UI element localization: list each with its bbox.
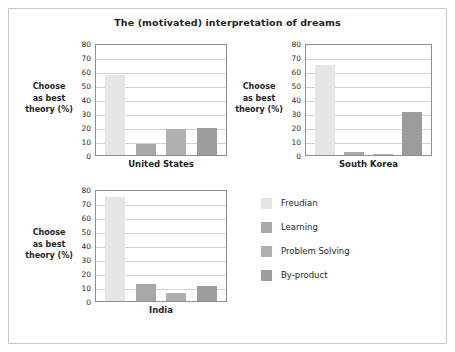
y-axis-label-line-1: Choose [231,81,287,93]
panel-united-states: Choose as best theory (%) 80706050403020… [21,35,231,177]
bar [136,284,156,302]
bar [105,197,125,301]
figure-frame: The (motivated) interpretation of dreams… [8,8,447,344]
panel-south-korea: Choose as best theory (%) 80706050403020… [231,35,436,177]
y-tick-label: 20 [285,125,301,133]
y-tick-label: 80 [75,41,91,49]
y-tick-label: 50 [75,83,91,91]
y-tick-label: 40 [285,97,301,105]
y-tick-label: 10 [75,139,91,147]
y-axis-label-line-2: as best [21,93,77,105]
panel-india: Choose as best theory (%) 80706050403020… [21,181,231,329]
bar [197,128,217,155]
y-tick-label: 80 [75,187,91,195]
bar-group [306,45,431,155]
y-tick-label: 60 [75,69,91,77]
y-tick-label: 30 [75,257,91,265]
panel-label-india: India [95,305,227,315]
y-tick-label: 0 [75,153,91,161]
y-tick-label: 70 [285,55,301,63]
y-axis-label-line-2: as best [231,93,287,105]
y-axis-label-line-3: theory (%) [21,250,77,262]
y-axis-ticks: 80706050403020100 [287,44,303,156]
bar [105,75,125,155]
panel-label-south-korea: South Korea [305,159,432,169]
legend-swatch [261,198,272,209]
y-axis-label-line-1: Choose [21,81,77,93]
bar-group [96,45,226,155]
legend-label: Learning [281,222,318,232]
y-axis-label-line-2: as best [21,239,77,251]
y-tick-label: 20 [75,271,91,279]
chart-title: The (motivated) interpretation of dreams [9,17,446,28]
y-axis-label-line-3: theory (%) [231,104,287,116]
bar [344,152,364,156]
plot-area [305,44,432,156]
y-axis-label: Choose as best theory (%) [231,81,287,116]
y-axis-ticks: 80706050403020100 [77,44,93,156]
bar [197,286,217,301]
y-tick-label: 40 [75,97,91,105]
y-tick-label: 70 [75,55,91,63]
legend-label: Problem Solving [281,246,350,256]
y-axis-label: Choose as best theory (%) [21,227,77,262]
y-tick-label: 30 [75,111,91,119]
y-tick-label: 30 [285,111,301,119]
bar [136,144,156,155]
y-tick-label: 70 [75,201,91,209]
legend-label: Freudian [281,198,318,208]
y-tick-label: 60 [285,69,301,77]
legend-item: Learning [261,215,431,239]
legend-swatch [261,270,272,281]
panel-label-united-states: United States [95,159,227,169]
y-axis-label-line-1: Choose [21,227,77,239]
y-tick-label: 0 [75,299,91,307]
legend-item: By-product [261,263,431,287]
bar [166,293,186,301]
legend-item: Problem Solving [261,239,431,263]
y-tick-label: 60 [75,215,91,223]
bar [402,112,422,155]
y-tick-label: 0 [285,153,301,161]
y-tick-label: 10 [285,139,301,147]
y-tick-label: 10 [75,285,91,293]
legend-swatch [261,246,272,257]
legend-swatch [261,222,272,233]
y-tick-label: 50 [285,83,301,91]
plot-area [95,44,227,156]
bar-group [96,191,226,301]
plot-area [95,190,227,302]
y-axis-label-line-3: theory (%) [21,104,77,116]
y-tick-label: 80 [285,41,301,49]
legend: FreudianLearningProblem SolvingBy-produc… [261,191,431,287]
bar [166,129,186,155]
y-axis-label: Choose as best theory (%) [21,81,77,116]
legend-label: By-product [281,270,327,280]
legend-item: Freudian [261,191,431,215]
bar [373,154,393,155]
y-tick-label: 20 [75,125,91,133]
y-axis-ticks: 80706050403020100 [77,190,93,302]
y-tick-label: 50 [75,229,91,237]
bar [315,65,335,155]
y-tick-label: 40 [75,243,91,251]
